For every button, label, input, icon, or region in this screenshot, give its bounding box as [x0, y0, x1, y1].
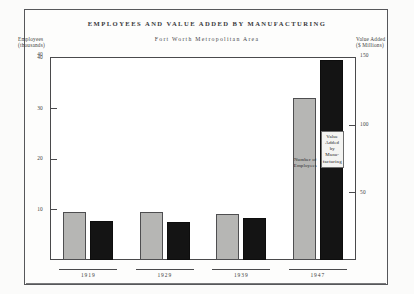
annotation-value-added: Value Added by Manu-facturing [321, 131, 344, 168]
left-tick-label: 10 [17, 206, 43, 212]
left-axis-caption-line2: (thousands) [18, 42, 45, 48]
right-tick-label-max: 150 [360, 52, 386, 58]
footer-rule [26, 283, 386, 284]
right-tick-label: 50 [360, 189, 386, 195]
left-tick-mark [50, 108, 57, 109]
bar-value-added-1939 [243, 218, 266, 260]
right-tick-mark [349, 125, 356, 126]
x-group-rule-1929 [136, 269, 194, 270]
bar-employees-1947 [293, 98, 316, 260]
bar-employees-1939 [216, 214, 239, 260]
x-group-rule-1919 [59, 269, 117, 270]
chart-figure: EMPLOYEES AND VALUE ADDED BY MANUFACTURI… [0, 0, 414, 294]
left-axis-caption-line1: Employees [18, 36, 43, 42]
bar-employees-1919 [63, 212, 86, 260]
left-tick-label: 20 [17, 155, 43, 161]
left-tick-mark [50, 159, 57, 160]
x-axis-label-1929: 1929 [136, 272, 194, 278]
chart-subtitle: Fort Worth Metropolitan Area [0, 36, 414, 42]
left-axis-caption: Employees (thousands) [18, 36, 45, 49]
right-axis-caption-line1: Value Added [356, 36, 385, 42]
bar-value-added-1919 [90, 221, 113, 260]
x-axis-label-1919: 1919 [59, 272, 117, 278]
x-axis-label-1939: 1939 [212, 272, 270, 278]
left-tick-label-max: 40 [17, 51, 43, 57]
annotation-number-of-employees: Number of Employees [293, 156, 318, 170]
bar-value-added-1929 [167, 222, 190, 260]
right-tick-mark [349, 192, 356, 193]
right-axis-caption: Value Added ($ Millions) [356, 36, 385, 49]
x-group-rule-1947 [289, 269, 347, 270]
bar-employees-1929 [140, 212, 163, 260]
left-tick-mark [50, 209, 57, 210]
left-tick-mark [50, 57, 57, 58]
right-axis-caption-line2: ($ Millions) [356, 42, 384, 48]
x-axis-label-1947: 1947 [289, 272, 347, 278]
x-group-rule-1939 [212, 269, 270, 270]
left-tick-label: 30 [17, 105, 43, 111]
right-tick-label: 100 [360, 121, 386, 127]
page-title: EMPLOYEES AND VALUE ADDED BY MANUFACTURI… [0, 20, 414, 27]
